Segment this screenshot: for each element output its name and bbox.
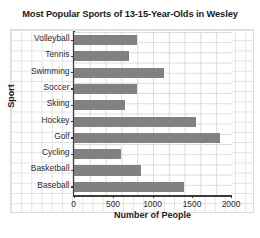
bar-row: Soccer [74,81,232,97]
x-axis-title: Number of People [73,210,232,220]
y-tick-label-skiing: Skiing [47,98,70,108]
y-tick-label-basketball: Basketball [31,163,70,173]
bar-row: Golf [74,130,232,146]
x-tick-mark [192,195,193,198]
y-tick-label-tennis: Tennis [45,49,69,59]
bar-row: Baseball [74,179,232,195]
y-tick-label-baseball: Baseball [37,180,69,190]
bar-row: Cycling [74,146,232,162]
bar-tennis[interactable] [74,51,129,61]
bar-chart-figure: Most Popular Sports of 13-15-Year-Olds i… [0,0,260,238]
x-tick-label-1500: 1500 [183,199,202,209]
x-tick-mark [113,195,114,198]
x-tick-mark [153,195,154,198]
bar-baseball[interactable] [74,182,185,192]
bar-cycling[interactable] [74,149,121,159]
chart-title: Most Popular Sports of 13-15-Year-Olds i… [0,9,260,19]
y-tick-label-cycling: Cycling [42,147,69,157]
y-tick-label-golf: Golf [54,131,69,141]
y-axis-title: Sport [6,84,16,108]
bar-basketball[interactable] [74,165,141,175]
y-tick-label-swimming: Swimming [31,66,70,76]
x-tick-mark [74,195,75,198]
x-tick-label-500: 500 [106,199,120,209]
bar-volleyball[interactable] [74,35,137,45]
bar-skiing[interactable] [74,100,125,110]
bar-hockey[interactable] [74,117,197,127]
y-tick-label-soccer: Soccer [43,82,69,92]
y-tick-label-volleyball: Volleyball [34,33,69,43]
x-tick-label-2000: 2000 [222,199,241,209]
bar-row: Skiing [74,97,232,113]
bar-soccer[interactable] [74,84,137,94]
bar-row: Basketball [74,162,232,178]
bar-row: Swimming [74,65,232,81]
y-tick-label-hockey: Hockey [42,115,70,125]
bar-row: Tennis [74,48,232,64]
bar-golf[interactable] [74,133,220,143]
bar-swimming[interactable] [74,68,165,78]
bar-row: Hockey [74,114,232,130]
plot-area: Volleyball Tennis Swimming Soccer Skiing… [74,32,232,195]
x-tick-label-1000: 1000 [143,199,162,209]
x-tick-label-0: 0 [71,199,76,209]
bar-row: Volleyball [74,32,232,48]
x-tick-mark [231,195,232,198]
